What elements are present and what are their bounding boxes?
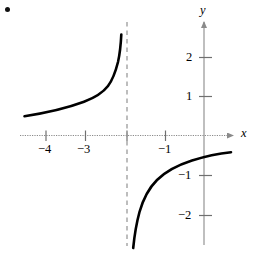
- x-tick-label--4: −4: [38, 142, 51, 157]
- y-axis-group: [199, 22, 212, 245]
- x-axis-label: x: [241, 126, 247, 141]
- hyperbola-plot: [0, 0, 259, 262]
- y-tick-label-1: 1: [186, 89, 192, 104]
- y-tick-label--1: −1: [178, 168, 191, 183]
- y-axis-label: y: [200, 3, 206, 18]
- x-tick-label--1: −1: [158, 142, 171, 157]
- x-tick-label--3: −3: [77, 142, 90, 157]
- y-tick-label--2: −2: [178, 208, 191, 223]
- curve-right-branch: [133, 152, 231, 248]
- y-tick-label-2: 2: [186, 50, 192, 65]
- graph-figure: −4 −3 −1 2 1 −1 −2 x y: [0, 0, 259, 262]
- curve-left-branch: [25, 35, 122, 117]
